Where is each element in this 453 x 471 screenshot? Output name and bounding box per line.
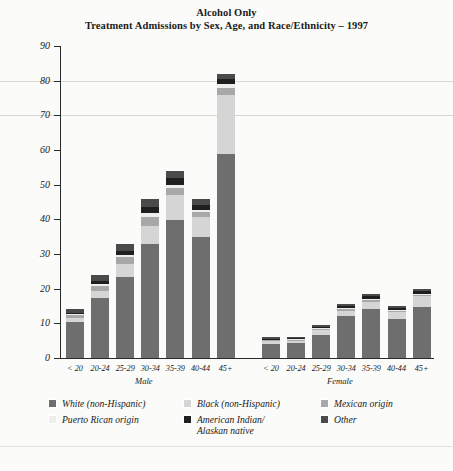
bar-segment (66, 314, 84, 315)
bar-stack (66, 46, 84, 358)
bar-segment (66, 313, 84, 315)
legend-label-line2: Alaskan native (197, 425, 254, 437)
bar-segment (413, 307, 431, 358)
bar-segment (362, 294, 380, 296)
bar-segment (287, 339, 305, 340)
bar-stack (91, 46, 109, 358)
bar-stack (192, 46, 210, 358)
bar-segment (362, 296, 380, 299)
bar-segment (217, 154, 235, 358)
bar-stack (312, 46, 330, 358)
bar-segment (362, 299, 380, 300)
bar-segment (413, 294, 431, 295)
legend-label: American Indian/ (197, 414, 264, 426)
bar-segment (116, 244, 134, 251)
bar-segment (192, 212, 210, 216)
bar-segment (217, 79, 235, 84)
bar-segment (262, 337, 280, 338)
bar-stack (116, 46, 134, 358)
bar-segment (66, 315, 84, 318)
bar-segment (413, 289, 431, 291)
bar-segment (312, 329, 330, 330)
bar-segment (91, 291, 109, 298)
bar-stack (262, 46, 280, 358)
bar-segment (337, 316, 355, 358)
x-axis-group-label: Female (252, 376, 428, 386)
bar-segment (141, 226, 159, 244)
bar-segment (287, 341, 305, 344)
bar-segment (192, 199, 210, 205)
bar-segment (388, 311, 406, 312)
bar-segment (362, 300, 380, 301)
bar-segment (91, 281, 109, 284)
bar-stack (287, 46, 305, 358)
bar-segment (116, 264, 134, 276)
bar-segment (217, 95, 235, 154)
bar-segment (388, 312, 406, 319)
bar-segment (217, 74, 235, 80)
bar-segment (66, 322, 84, 358)
chart-figure: Alcohol Only Treatment Admissions by Sex… (0, 0, 453, 471)
legend-swatch (320, 415, 329, 424)
legend-label: Mexican origin (334, 398, 393, 410)
bar-segment (116, 257, 134, 264)
bar-segment (166, 220, 184, 358)
bar-segment (388, 308, 406, 310)
bar-segment (262, 341, 280, 344)
bar-stack (217, 46, 235, 358)
bar-segment (166, 171, 184, 178)
bar-segment (287, 343, 305, 358)
bar-segment (116, 251, 134, 256)
bar-segment (262, 344, 280, 358)
bar-stack (362, 46, 380, 358)
bar-segment (337, 304, 355, 306)
legend-swatch (320, 399, 329, 408)
bar-segment (116, 255, 134, 257)
bar-stack (337, 46, 355, 358)
legend-swatch (48, 415, 57, 424)
bar-segment (337, 306, 355, 308)
bar-segment (141, 244, 159, 358)
legend-swatch (48, 399, 57, 408)
bar-segment (116, 277, 134, 358)
bar-segment (141, 213, 159, 217)
bar-segment (312, 335, 330, 358)
bar-segment (192, 217, 210, 237)
bar-segment (362, 309, 380, 358)
bar-segment (287, 337, 305, 338)
bar-segment (91, 298, 109, 358)
legend-swatch (183, 415, 192, 424)
bar-segment (141, 199, 159, 207)
bar-segment (141, 217, 159, 225)
bar-segment (262, 340, 280, 341)
bar-segment (192, 205, 210, 211)
bar-stack (141, 46, 159, 358)
bar-segment (91, 275, 109, 281)
bar-segment (337, 311, 355, 316)
x-axis-tick-label: 45+ (407, 364, 437, 373)
bottom-rule (0, 446, 453, 447)
bar-segment (66, 318, 84, 322)
bar-segment (91, 286, 109, 291)
legend-label: Other (334, 414, 356, 426)
legend-label: White (non-Hispanic) (62, 398, 145, 410)
bar-segment (337, 309, 355, 310)
bar-segment (413, 291, 431, 293)
bar-segment (166, 188, 184, 195)
bar-segment (192, 237, 210, 358)
bar-segment (362, 302, 380, 310)
bar-segment (262, 338, 280, 339)
bar-segment (312, 330, 330, 335)
x-axis-tick-label: 45+ (211, 364, 241, 373)
bar-segment (413, 296, 431, 307)
legend-label: Black (non-Hispanic) (197, 398, 280, 410)
bar-segment (166, 185, 184, 188)
bar-segment (287, 338, 305, 339)
bar-segment (166, 178, 184, 185)
bar-segment (312, 325, 330, 327)
bar-segment (66, 309, 84, 312)
bar-segment (312, 327, 330, 328)
bar-segment (192, 210, 210, 212)
legend-label: Puerto Rican origin (62, 414, 139, 426)
x-axis-group-label: Male (56, 376, 232, 386)
